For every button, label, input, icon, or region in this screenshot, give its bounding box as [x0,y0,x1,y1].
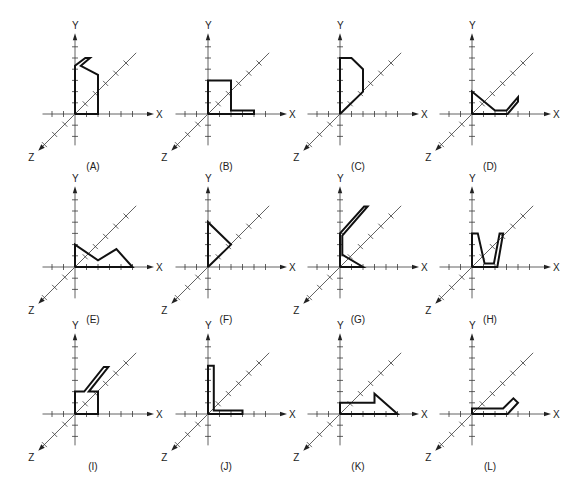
x-axis-label: X [289,262,296,273]
x-axis-arrow-icon [544,412,551,416]
axonometric-figure-grid: XYZ(A)XYZ(B)XYZ(C)XYZ(D)XYZ(E)XYZ(F)XYZ(… [0,0,574,490]
y-axis-label: Y [337,20,344,31]
y-axis-label: Y [205,173,212,184]
panel-caption: (K) [351,461,364,472]
y-axis-label: Y [469,173,476,184]
y-axis-label: Y [72,173,79,184]
z-axis-label: Z [28,305,34,316]
x-axis-label: X [421,109,428,120]
y-axis-arrow-icon [73,33,77,40]
panel-caption: (C) [351,161,365,172]
panel-l: XYZ(L) [425,320,560,472]
y-axis-label: Y [205,20,212,31]
y-axis-arrow-icon [470,186,474,193]
panel-e: XYZ(E) [28,173,163,325]
shape-outline [208,80,254,114]
y-axis-arrow-icon [206,186,210,193]
z-axis-label: Z [161,452,167,463]
panel-caption: (H) [483,314,497,325]
panel-h: XYZ(H) [425,173,560,325]
x-axis-label: X [553,109,560,120]
shape-outline [208,366,243,414]
z-axis-label: Z [293,152,299,163]
y-axis-arrow-icon [338,333,342,340]
x-axis-label: X [289,409,296,420]
y-axis-label: Y [205,320,212,331]
shape-outline [340,207,368,268]
panel-a: XYZ(A) [28,20,163,172]
z-axis-label: Z [28,152,34,163]
y-axis-label: Y [337,173,344,184]
panel-caption: (D) [483,161,497,172]
panel-caption: (B) [219,161,232,172]
x-axis-label: X [421,262,428,273]
panel-caption: (I) [88,461,97,472]
x-axis-arrow-icon [280,112,287,116]
z-axis-label: Z [293,305,299,316]
panel-d: XYZ(D) [425,20,560,172]
x-axis-arrow-icon [280,412,287,416]
x-axis-label: X [156,109,163,120]
panel-caption: (L) [484,461,496,472]
x-axis-arrow-icon [147,265,154,269]
panel-caption: (A) [86,161,99,172]
y-axis-arrow-icon [470,333,474,340]
x-axis-arrow-icon [544,265,551,269]
panel-f: XYZ(F) [161,173,296,325]
y-axis-label: Y [72,20,79,31]
y-axis-arrow-icon [206,333,210,340]
x-axis-arrow-icon [412,265,419,269]
panel-b: XYZ(B) [161,20,296,172]
y-axis-arrow-icon [470,33,474,40]
y-axis-arrow-icon [338,186,342,193]
shape-outline [75,367,108,414]
x-axis-arrow-icon [412,412,419,416]
panel-caption: (J) [220,461,232,472]
panel-c: XYZ(C) [293,20,428,172]
shape-outline [75,245,133,267]
z-axis-label: Z [161,152,167,163]
panel-k: XYZ(K) [293,320,428,472]
x-axis-arrow-icon [280,265,287,269]
x-axis-label: X [553,409,560,420]
x-axis-arrow-icon [147,412,154,416]
x-axis-arrow-icon [147,112,154,116]
z-axis-label: Z [425,152,431,163]
x-axis-arrow-icon [544,112,551,116]
y-axis-arrow-icon [206,33,210,40]
panel-j: XYZ(J) [161,320,296,472]
y-axis-label: Y [469,320,476,331]
x-axis-label: X [156,262,163,273]
panel-caption: (E) [86,314,99,325]
x-axis-label: X [553,262,560,273]
panel-caption: (F) [220,314,233,325]
y-axis-arrow-icon [338,33,342,40]
z-axis-label: Z [293,452,299,463]
z-axis-label: Z [425,452,431,463]
shape-outline [340,394,398,414]
z-axis-label: Z [425,305,431,316]
shape-outline [472,92,518,114]
x-axis-label: X [289,109,296,120]
z-axis-label: Z [28,452,34,463]
y-axis-label: Y [469,20,476,31]
shape-outline [208,222,231,267]
z-axis-label: Z [161,305,167,316]
x-axis-label: X [421,409,428,420]
y-axis-label: Y [337,320,344,331]
x-axis-label: X [156,409,163,420]
panel-caption: (G) [351,314,365,325]
panel-g: XYZ(G) [293,173,428,325]
x-axis-arrow-icon [412,112,419,116]
y-axis-arrow-icon [73,186,77,193]
panel-i: XYZ(I) [28,320,163,472]
y-axis-label: Y [72,320,79,331]
y-axis-arrow-icon [73,333,77,340]
